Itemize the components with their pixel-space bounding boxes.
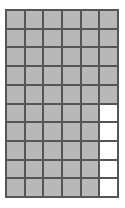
grid-cell [100,161,119,180]
grid-cell [44,105,63,124]
grid-cell [100,142,119,161]
grid-cell [63,48,82,67]
grid-cell [63,105,82,124]
grid-cell [26,30,45,49]
grid-cell [63,86,82,105]
grid-cell [82,11,101,30]
grid-cell [82,161,101,180]
grid-cell [100,48,119,67]
grid-cell [7,48,26,67]
figure-root [0,0,125,208]
grid-cell [100,30,119,49]
grid-cell [100,105,119,124]
grid-cell [44,11,63,30]
grid-cell [63,123,82,142]
grid-cell [100,11,119,30]
grid-cell [82,48,101,67]
grid-cell [26,11,45,30]
grid-cell [26,105,45,124]
grid-cell [7,179,26,198]
grid-cell [7,161,26,180]
grid-cell [26,142,45,161]
grid-cell [7,105,26,124]
grid-cell [82,142,101,161]
grid-cell [26,86,45,105]
grid-cell [44,179,63,198]
grid-cell [7,86,26,105]
grid-cell [44,123,63,142]
grid-cell [44,86,63,105]
grid-cell [26,67,45,86]
grid-cell [26,161,45,180]
grid-cell [82,179,101,198]
grid-cell [44,48,63,67]
grid-cell [100,86,119,105]
grid-cell [63,161,82,180]
grid-cell [100,123,119,142]
grid-cell [100,67,119,86]
grid-cell [7,30,26,49]
grid-cell [82,123,101,142]
grid-cell [63,30,82,49]
grid-cell [7,123,26,142]
grid-cell [82,86,101,105]
grid-cell [100,179,119,198]
grid-cell [44,67,63,86]
grid-cell [63,142,82,161]
grid-cell [63,11,82,30]
grid-cell [44,161,63,180]
grid-cell [44,30,63,49]
grid-cell [82,30,101,49]
grid-cell [7,11,26,30]
grid-cell [7,67,26,86]
grid-cell [82,67,101,86]
grid-cell [44,142,63,161]
grid-cell [7,142,26,161]
area-model-grid [5,9,119,198]
grid-cell [63,67,82,86]
grid-cell [26,179,45,198]
grid-cell [63,179,82,198]
grid-cell [82,105,101,124]
grid-cell [26,123,45,142]
grid-cell [26,48,45,67]
